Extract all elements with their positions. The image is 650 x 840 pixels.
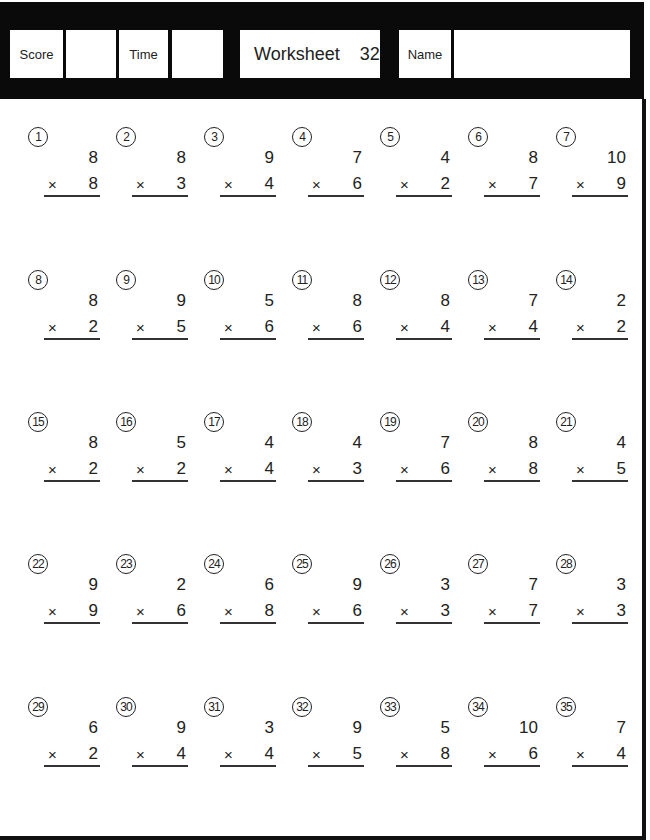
name-field[interactable] [454,30,630,78]
answer-line [308,765,364,767]
problem-item: 357×4 [556,697,626,777]
answer-line [132,480,188,482]
answer-line [308,480,364,482]
multiplier: 4 [265,174,274,194]
multiply-sign-icon: × [224,602,233,622]
header-band: Score Time Worksheet 32 Name [0,2,644,99]
answer-line [484,480,540,482]
problem-item: 165×2 [116,412,186,492]
multiply-sign-icon: × [576,602,585,622]
multiplicand: 8 [529,148,538,168]
answer-line [484,338,540,340]
problem-number-badge: 3 [204,127,224,147]
answer-line [572,765,628,767]
problem-number-badge: 29 [28,697,48,717]
problem-item: 68×7 [468,127,538,207]
problem-item: 174×4 [204,412,274,492]
problem-item: 296×2 [28,697,98,777]
problem-item: 329×5 [292,697,362,777]
answer-line [572,480,628,482]
problem-number-badge: 9 [116,270,136,290]
answer-line [44,480,100,482]
multiplier: 5 [353,744,362,764]
problem-number-badge: 13 [468,270,488,290]
problem-number-badge: 34 [468,697,488,717]
page-border-bottom [0,836,646,840]
multiply-sign-icon: × [136,602,145,622]
problem-number-badge: 22 [28,554,48,574]
multiplier: 6 [353,174,362,194]
multiply-sign-icon: × [488,745,497,765]
worksheet-label: Worksheet [254,44,340,65]
multiplicand: 9 [89,575,98,595]
answer-line [308,622,364,624]
problem-item: 214×5 [556,412,626,492]
time-field[interactable] [172,30,223,78]
multiply-sign-icon: × [400,602,409,622]
problem-number-badge: 7 [556,127,576,147]
score-field[interactable] [66,30,116,78]
multiplier: 6 [177,601,186,621]
multiplier: 3 [353,459,362,479]
answer-line [220,765,276,767]
name-label: Name [399,30,451,78]
multiply-sign-icon: × [136,175,145,195]
worksheet-number: 32 [360,44,380,65]
problem-item: 105×6 [204,270,274,350]
multiplicand: 8 [89,433,98,453]
problem-item: 99×5 [116,270,186,350]
problem-number-badge: 4 [292,127,312,147]
multiplier: 3 [441,601,450,621]
multiplier: 9 [617,174,626,194]
multiplicand: 5 [265,291,274,311]
problem-number-badge: 23 [116,554,136,574]
problem-item: 39×4 [204,127,274,207]
multiplier: 4 [265,459,274,479]
multiplicand: 7 [353,148,362,168]
multiply-sign-icon: × [48,745,57,765]
problem-number-badge: 15 [28,412,48,432]
problem-item: 232×6 [116,554,186,634]
multiplicand: 6 [89,718,98,738]
answer-line [220,622,276,624]
problem-number-badge: 35 [556,697,576,717]
problem-item: 18×8 [28,127,98,207]
multiplicand: 8 [89,291,98,311]
problem-item: 88×2 [28,270,98,350]
answer-line [132,338,188,340]
answer-line [572,622,628,624]
multiplicand: 9 [177,291,186,311]
answer-line [484,622,540,624]
problem-number-badge: 2 [116,127,136,147]
multiply-sign-icon: × [576,745,585,765]
problem-item: 283×3 [556,554,626,634]
problem-number-badge: 10 [204,270,224,290]
multiplier: 4 [177,744,186,764]
multiplier: 4 [529,317,538,337]
multiplier: 5 [177,317,186,337]
problem-number-badge: 33 [380,697,400,717]
multiplicand: 8 [177,148,186,168]
problem-item: 246×8 [204,554,274,634]
multiplicand: 10 [519,718,538,738]
multiply-sign-icon: × [400,318,409,338]
answer-line [396,195,452,197]
answer-line [44,338,100,340]
problem-number-badge: 30 [116,697,136,717]
answer-line [220,480,276,482]
multiplier: 4 [441,317,450,337]
problem-item: 118×6 [292,270,362,350]
multiplier: 8 [89,174,98,194]
multiplicand: 6 [265,575,274,595]
answer-line [484,195,540,197]
answer-line [308,338,364,340]
problem-number-badge: 24 [204,554,224,574]
multiply-sign-icon: × [48,175,57,195]
multiplicand: 7 [441,433,450,453]
problem-number-badge: 31 [204,697,224,717]
problem-number-badge: 32 [292,697,312,717]
multiply-sign-icon: × [400,745,409,765]
answer-line [44,195,100,197]
multiply-sign-icon: × [136,318,145,338]
multiplier: 6 [353,601,362,621]
